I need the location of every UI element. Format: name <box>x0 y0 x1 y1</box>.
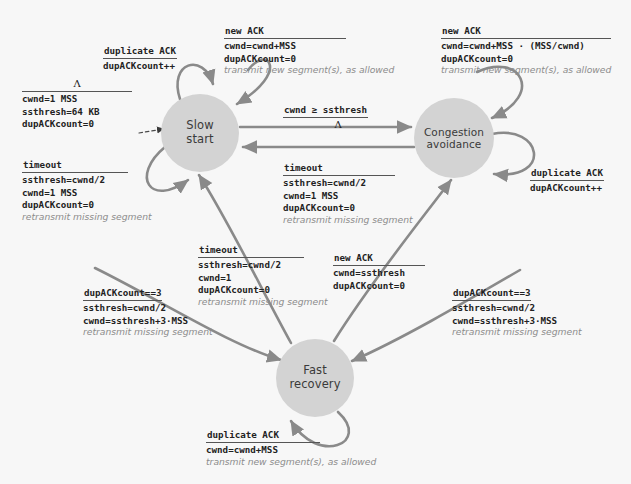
label-ca-dupack-action-1: dupACKcount++ <box>530 182 604 193</box>
label-ss-dupack-event: duplicate ACK <box>103 45 177 59</box>
label-ss-to-ca-event: cwnd ≥ ssthresh <box>283 104 368 118</box>
label-congestion-avoidance-to-slow-start: timeout ssthresh=cwnd/2 cwnd=1 MSS dupAC… <box>283 156 413 225</box>
label-init-action-1: cwnd=1 MSS <box>22 93 132 104</box>
label-fr-to-ss-action-2: cwnd=1 <box>198 272 328 283</box>
label-init-action-2: ssthresh=64 KB <box>22 106 132 117</box>
label-ss-timeout-action-2: cwnd=1 MSS <box>22 187 152 198</box>
state-slow-start[interactable]: Slow start <box>161 94 239 172</box>
label-slow-start-newack-loop: new ACK cwnd=cwnd+MSS dupACKcount=0 tran… <box>224 19 394 75</box>
arrow-init-to-slow-start <box>139 129 163 133</box>
state-congestion-avoidance[interactable]: Congestion avoidance <box>414 98 494 178</box>
label-fr-dupack-event: duplicate ACK <box>206 429 320 443</box>
label-fr-dupack-action-1: cwnd=cwnd+MSS <box>206 444 376 455</box>
state-congestion-avoidance-label-line2: avoidance <box>427 138 482 150</box>
label-ca-to-ss-event: timeout <box>283 162 395 176</box>
label-fr-to-ca-action-1: cwnd=ssthresh <box>333 267 425 278</box>
label-ss-timeout-note: retransmit missing segment <box>22 211 152 222</box>
label-ss-timeout-action-1: ssthresh=cwnd/2 <box>22 174 152 185</box>
label-ca-newack-action-1: cwnd=cwnd+MSS · (MSS/cwnd) <box>441 40 611 51</box>
label-init-action-3: dupACKcount=0 <box>22 118 132 129</box>
label-ca-dupack-event: duplicate ACK <box>530 167 604 181</box>
label-slow-start-timeout-loop: timeout ssthresh=cwnd/2 cwnd=1 MSS dupAC… <box>22 153 152 222</box>
label-congestion-avoidance-newack-loop: new ACK cwnd=cwnd+MSS · (MSS/cwnd) dupAC… <box>441 19 611 75</box>
label-fr-to-ss-action-3: dupACKcount=0 <box>198 284 328 295</box>
label-ca-to-ss-action-3: dupACKcount=0 <box>283 202 413 213</box>
state-fast-recovery-label-line1: Fast <box>303 364 327 378</box>
label-ca-newack-event: new ACK <box>441 25 611 39</box>
label-ca-to-ss-action-2: cwnd=1 MSS <box>283 190 413 201</box>
label-fast-recovery-to-slow-start: timeout ssthresh=cwnd/2 cwnd=1 dupACKcou… <box>198 238 328 307</box>
state-fast-recovery-label-line2: recovery <box>289 378 340 392</box>
label-congestion-avoidance-dupack-loop: duplicate ACK dupACKcount++ <box>530 161 604 193</box>
label-fr-to-ss-note: retransmit missing segment <box>198 296 328 307</box>
label-ca-newack-action-2: dupACKcount=0 <box>441 53 611 64</box>
label-ca-to-ss-action-1: ssthresh=cwnd/2 <box>283 177 413 188</box>
label-ss-to-fr-event: dupACKcount==3 <box>83 287 162 301</box>
label-slow-start-to-congestion-avoidance: cwnd ≥ ssthresh Λ <box>283 98 393 130</box>
label-slow-start-to-fast-recovery: dupACKcount==3 ssthresh=cwnd/2 cwnd=ssth… <box>83 281 213 337</box>
label-ss-newack-action-2: dupACKcount=0 <box>224 53 394 64</box>
label-init-to-slow-start: Λ cwnd=1 MSS ssthresh=64 KB dupACKcount=… <box>22 72 132 129</box>
label-fast-recovery-dupack-loop: duplicate ACK cwnd=cwnd+MSS transmit new… <box>206 423 376 467</box>
label-fr-to-ss-event: timeout <box>198 244 304 258</box>
label-ss-dupack-action-1: dupACKcount++ <box>103 60 177 71</box>
label-congestion-avoidance-to-fast-recovery: dupACKcount==3 ssthresh=cwnd/2 cwnd=ssth… <box>452 281 582 337</box>
label-ss-newack-event: new ACK <box>224 25 346 39</box>
label-init-event: Λ <box>22 78 132 92</box>
label-ss-to-ca-action-1: Λ <box>283 119 393 130</box>
label-fr-to-ca-action-2: dupACKcount=0 <box>333 280 425 291</box>
tcp-congestion-control-diagram: Slow start Congestion avoidance Fast rec… <box>0 0 631 484</box>
label-slow-start-dupack-loop: duplicate ACK dupACKcount++ <box>103 39 177 71</box>
label-ca-to-fr-note: retransmit missing segment <box>452 326 582 337</box>
state-slow-start-label-line1: Slow <box>186 119 213 133</box>
label-ss-to-fr-note: retransmit missing segment <box>83 326 213 337</box>
label-ss-newack-note: transmit new segment(s), as allowed <box>224 64 394 75</box>
label-fast-recovery-to-congestion-avoidance: new ACK cwnd=ssthresh dupACKcount=0 <box>333 246 425 291</box>
label-ca-to-fr-action-1: ssthresh=cwnd/2 <box>452 302 582 313</box>
label-fr-dupack-note: transmit new segment(s), as allowed <box>206 456 376 467</box>
label-fr-to-ca-event: new ACK <box>333 252 425 266</box>
label-ss-newack-action-1: cwnd=cwnd+MSS <box>224 40 394 51</box>
label-fr-to-ss-action-1: ssthresh=cwnd/2 <box>198 259 328 270</box>
label-ss-to-fr-action-1: ssthresh=cwnd/2 <box>83 302 213 313</box>
arrow-congestion-avoidance-dupack-loop <box>492 133 534 175</box>
state-congestion-avoidance-label-line1: Congestion <box>424 126 484 138</box>
label-ca-to-fr-event: dupACKcount==3 <box>452 287 531 301</box>
label-ca-newack-note: transmit new segment(s), as allowed <box>441 64 611 75</box>
label-ss-timeout-event: timeout <box>22 159 128 173</box>
label-ss-timeout-action-3: dupACKcount=0 <box>22 199 152 210</box>
state-fast-recovery[interactable]: Fast recovery <box>276 339 354 417</box>
label-ca-to-fr-action-2: cwnd=ssthresh+3·MSS <box>452 315 582 326</box>
label-ca-to-ss-note: retransmit missing segment <box>283 214 413 225</box>
label-ss-to-fr-action-2: cwnd=ssthresh+3·MSS <box>83 315 213 326</box>
state-slow-start-label-line2: start <box>186 133 213 147</box>
